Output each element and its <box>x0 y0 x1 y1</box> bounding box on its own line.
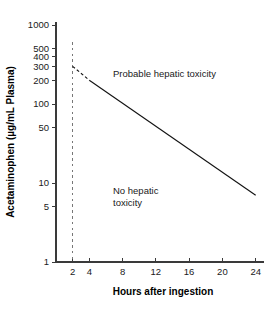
x-tick-label: 8 <box>120 266 125 277</box>
y-tick-label: 1 <box>44 256 49 267</box>
y-tick-label: 10 <box>38 177 49 188</box>
no-toxicity-label-line2: toxicity <box>113 197 142 208</box>
y-tick-label: 1000 <box>28 19 49 30</box>
nomogram-figure: 1000500400300200100501051 24812162024 Pr… <box>0 0 272 309</box>
x-tick-label: 20 <box>217 266 228 277</box>
y-axis-title: Acetaminophen (µg/mL Plasma) <box>5 66 16 218</box>
no-toxicity-label-line1: No hepatic <box>113 185 159 196</box>
plot-axes <box>56 22 264 262</box>
x-tick-label: 24 <box>250 266 261 277</box>
treatment-line-group <box>73 66 256 195</box>
y-tick-label: 5 <box>44 201 49 212</box>
y-axis-tick-labels: 1000500400300200100501051 <box>28 19 49 267</box>
treatment-line-dashed-segment <box>73 66 90 80</box>
probable-toxicity-label: Probable hepatic toxicity <box>113 68 216 79</box>
x-tick-label: 4 <box>87 266 92 277</box>
y-tick-label: 50 <box>38 122 49 133</box>
x-tick-label: 16 <box>184 266 195 277</box>
treatment-line-solid-segment <box>89 80 255 195</box>
y-tick-label: 200 <box>33 75 49 86</box>
axis-lines <box>56 22 264 262</box>
x-tick-label: 2 <box>70 266 75 277</box>
x-tick-label: 12 <box>151 266 162 277</box>
y-tick-label: 300 <box>33 61 49 72</box>
chart-canvas: 1000500400300200100501051 24812162024 Pr… <box>0 0 272 309</box>
x-axis-title: Hours after ingestion <box>113 286 214 297</box>
y-tick-label: 100 <box>33 98 49 109</box>
x-axis-tick-labels: 24812162024 <box>70 266 261 277</box>
